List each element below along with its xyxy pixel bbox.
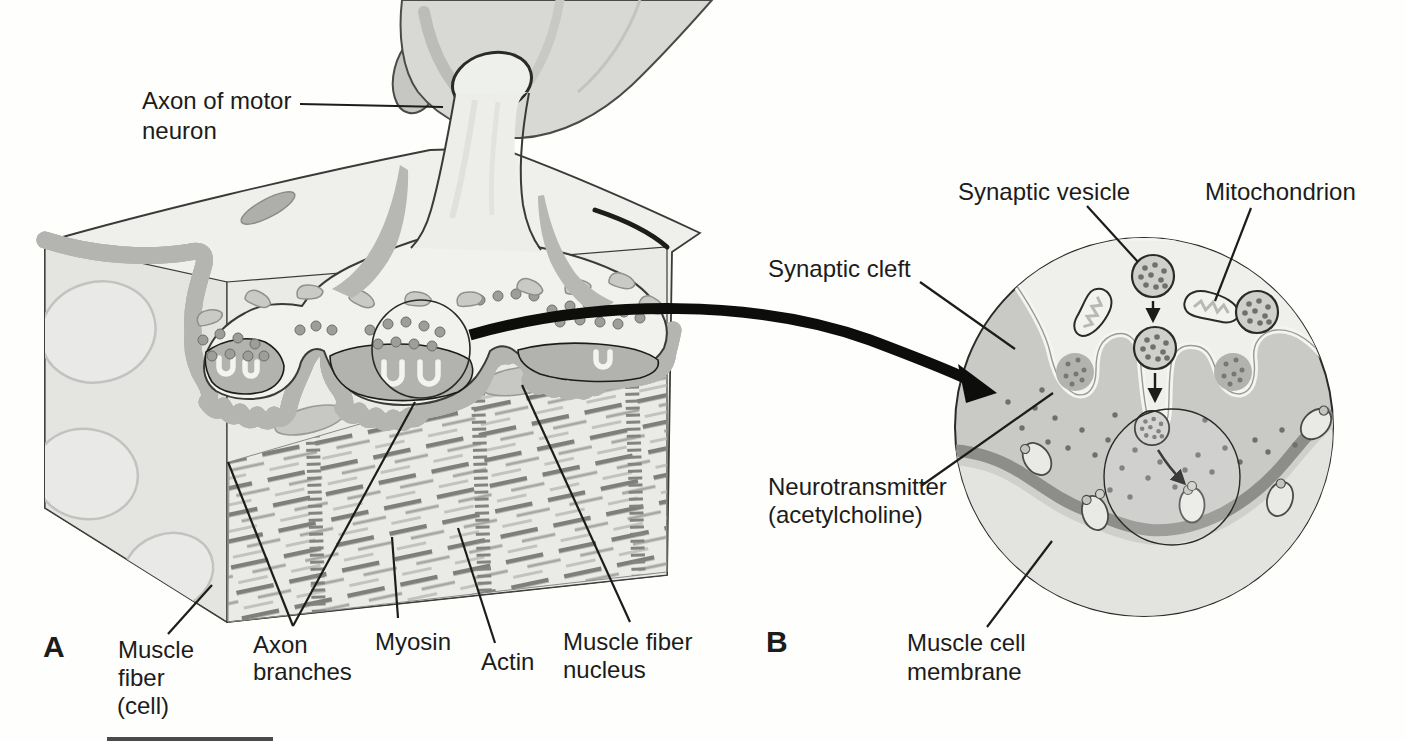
label-axon-branches: Axon — [253, 631, 308, 658]
figure-canvas: A Axon of motor neuron Muscle fiber (cel… — [0, 0, 1406, 741]
label-actin: Actin — [481, 648, 534, 675]
label-myosin: Myosin — [375, 628, 451, 655]
label-muscle-fiber-cell-3: (cell) — [117, 692, 169, 719]
label-synaptic-cleft: Synaptic cleft — [768, 255, 911, 282]
label-mitochondrion: Mitochondrion — [1205, 178, 1356, 205]
label-muscle-fiber-cell: Muscle — [118, 636, 194, 663]
label-muscle-cell-membrane-2: membrane — [907, 658, 1022, 685]
label-muscle-cell-membrane: Muscle cell — [907, 629, 1026, 656]
panel-b-illustration — [948, 235, 1345, 620]
label-neurotransmitter: Neurotransmitter — [768, 473, 947, 500]
neuromuscular-junction-diagram: A Axon of motor neuron Muscle fiber (cel… — [0, 0, 1406, 741]
label-axon-of-motor-neuron: Axon of motor — [142, 87, 291, 114]
scan-artifact-bar — [107, 737, 273, 741]
panel-b-letter: B — [766, 625, 788, 658]
panel-a-letter: A — [43, 630, 65, 663]
label-muscle-fiber-nucleus: Muscle fiber — [563, 628, 692, 655]
release-site-circle — [1104, 409, 1240, 545]
label-synaptic-vesicle: Synaptic vesicle — [958, 178, 1130, 205]
label-axon-branches-2: branches — [253, 658, 352, 685]
label-muscle-fiber-cell-2: fiber — [118, 664, 165, 691]
label-axon-of-motor-neuron-2: neuron — [142, 117, 217, 144]
label-muscle-fiber-nucleus-2: nucleus — [563, 656, 646, 683]
label-neurotransmitter-2: (acetylcholine) — [768, 501, 923, 528]
